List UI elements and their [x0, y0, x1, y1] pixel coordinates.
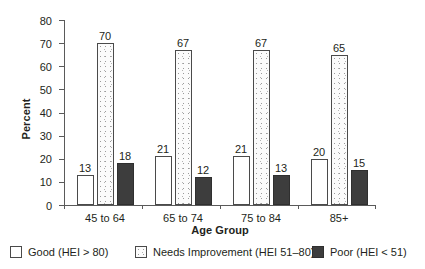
- bar-value-label: 21: [235, 144, 247, 155]
- y-axis-tick-label: 60: [40, 61, 52, 72]
- y-axis-tick: 30: [59, 136, 64, 137]
- y-axis-tick: 10: [59, 182, 64, 183]
- x-axis-tick-label: 45 to 64: [85, 212, 125, 224]
- bar: 12: [195, 177, 212, 205]
- bar-value-label: 15: [353, 158, 365, 169]
- y-axis-tick-label: 50: [40, 84, 52, 95]
- bar: 70: [97, 43, 114, 205]
- x-axis-tick: [220, 205, 221, 209]
- legend-swatch-icon: [135, 246, 147, 258]
- y-axis-tick-label: 20: [40, 154, 52, 165]
- legend-item-label: Needs Improvement (HEI 51–80): [153, 246, 314, 258]
- bar-value-label: 65: [333, 43, 345, 54]
- bar: 65: [331, 55, 348, 205]
- bar: 21: [155, 156, 172, 205]
- legend-swatch-icon: [10, 246, 22, 258]
- y-axis-tick: 40: [59, 113, 64, 114]
- bar: 13: [273, 175, 290, 205]
- legend-item[interactable]: Poor (HEI < 51): [312, 243, 407, 261]
- y-axis-tick: 20: [59, 159, 64, 160]
- y-axis-tick-label: 0: [46, 200, 52, 211]
- legend-item-label: Good (HEI > 80): [28, 246, 108, 258]
- x-axis-tick-label: 85+: [330, 212, 349, 224]
- y-axis-tick: 80: [59, 20, 64, 21]
- y-axis-line: [64, 20, 65, 206]
- bar: 67: [253, 50, 270, 205]
- bar: 18: [117, 163, 134, 205]
- bar-value-label: 18: [119, 151, 131, 162]
- bar: 13: [77, 175, 94, 205]
- plot-area: 01020304050607080 1370182167122167132065…: [64, 20, 376, 206]
- bar: 15: [351, 170, 368, 205]
- y-axis-tick: 70: [59, 43, 64, 44]
- legend-item[interactable]: Good (HEI > 80): [10, 243, 108, 261]
- bar-value-label: 20: [313, 147, 325, 158]
- bar: 67: [175, 50, 192, 205]
- bar: 21: [233, 156, 250, 205]
- bar-chart: Percent 01020304050607080 13701821671221…: [0, 0, 425, 269]
- bar-value-label: 21: [157, 144, 169, 155]
- x-axis-tick: [375, 205, 376, 209]
- bar-value-label: 13: [275, 163, 287, 174]
- y-axis-tick-label: 10: [40, 177, 52, 188]
- bar-value-label: 67: [177, 38, 189, 49]
- legend-item-label: Poor (HEI < 51): [330, 246, 407, 258]
- bar-value-label: 12: [197, 165, 209, 176]
- x-axis-tick: [298, 205, 299, 209]
- y-axis-tick-label: 70: [40, 38, 52, 49]
- y-axis-tick-label: 30: [40, 131, 52, 142]
- y-axis-tick-label: 80: [40, 15, 52, 26]
- x-axis-tick: [142, 205, 143, 209]
- legend-item[interactable]: Needs Improvement (HEI 51–80): [135, 243, 314, 261]
- x-axis-tick: [64, 205, 65, 209]
- y-axis-title: Percent: [19, 34, 33, 204]
- chart-legend: Good (HEI > 80)Needs Improvement (HEI 51…: [0, 243, 425, 263]
- y-axis-tick: 50: [59, 89, 64, 90]
- bar-value-label: 67: [255, 38, 267, 49]
- y-axis-tick: 60: [59, 66, 64, 67]
- bar: 20: [311, 159, 328, 205]
- y-axis-tick-label: 40: [40, 108, 52, 119]
- legend-swatch-icon: [312, 246, 324, 258]
- x-axis-tick-label: 75 to 84: [241, 212, 281, 224]
- bar-value-label: 70: [99, 31, 111, 42]
- x-axis-tick-label: 65 to 74: [163, 212, 203, 224]
- bar-value-label: 13: [79, 163, 91, 174]
- x-axis-title: Age Group: [64, 224, 376, 237]
